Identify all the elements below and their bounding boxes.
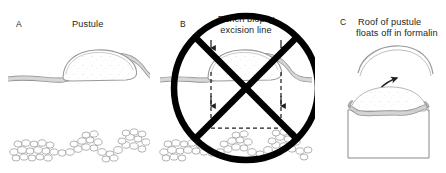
panel-c-title-line-2: floats off in formalin [356,28,438,38]
panel-b-letter: B [180,19,186,29]
panel-c-letter: C [340,17,346,27]
panel-c-title-line-1: Roof of pustule [358,17,421,27]
panel-a-title: Pustule [72,19,103,29]
figure-canvas: A Pustule [0,0,446,173]
pustule-biopsy-figure: A Pustule [0,0,446,173]
panel-a-letter: A [16,19,22,29]
panel-b-title-line-2: excision line [220,25,271,35]
